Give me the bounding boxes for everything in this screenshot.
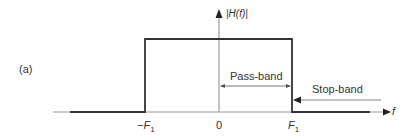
lowpass-filter-diagram: (a) |H(f)| f −F1 0 F1 Pass-band Stop-ban… (0, 0, 411, 140)
tick-label-f1-sub: 1 (295, 125, 299, 134)
pass-band-right-arrow-icon (286, 84, 291, 88)
tick-label-f1-main: F (288, 119, 295, 131)
tick-label-neg-f1: −F1 (137, 120, 155, 131)
stop-band-label: Stop-band (312, 84, 363, 95)
x-axis-label: f (392, 106, 395, 117)
tick-label-neg-f1-sub: 1 (150, 125, 154, 134)
panel-label: (a) (19, 64, 32, 75)
pass-band-label: Pass-band (230, 71, 283, 82)
magnitude-axis-arrow-icon (216, 9, 223, 18)
pass-band-left-arrow-icon (220, 84, 225, 88)
frequency-axis-arrow-icon (383, 109, 391, 116)
tick-label-f1: F1 (288, 120, 299, 131)
tick-label-zero: 0 (216, 120, 222, 131)
y-axis-label: |H(f)| (226, 9, 248, 19)
tick-label-neg-f1-main: −F (137, 119, 150, 131)
stop-band-arrow-icon (293, 97, 301, 104)
diagram-canvas (0, 0, 411, 140)
frequency-response-curve (70, 39, 370, 112)
